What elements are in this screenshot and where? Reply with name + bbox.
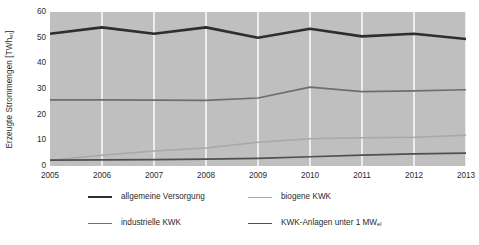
plot-area: [50, 12, 466, 166]
legend-item[interactable]: KWK-Anlagen unter 1 MWel: [248, 216, 381, 230]
legend-color-swatch: [248, 223, 272, 224]
legend-color-swatch: [248, 197, 272, 198]
legend-label-subscript: el: [377, 221, 381, 227]
x-axis-tick-label: 2012: [405, 172, 423, 180]
x-axis-tick-label: 2010: [301, 172, 319, 180]
legend-label: allgemeine Versorgung: [121, 193, 205, 201]
legend-color-swatch: [88, 223, 112, 224]
chart-legend: allgemeine Versorgungbiogene KWKindustri…: [88, 190, 468, 238]
x-axis-tick-label: 2006: [93, 172, 111, 180]
plot-svg: [50, 12, 466, 166]
legend-item[interactable]: industrielle KWK: [88, 216, 181, 230]
x-axis-tick-label: 2008: [197, 172, 215, 180]
legend-item[interactable]: allgemeine Versorgung: [88, 190, 205, 204]
legend-label: KWK-Anlagen unter 1 MWel: [281, 219, 381, 228]
x-axis-tick-label: 2007: [145, 172, 163, 180]
x-axis-tick-label: 2005: [41, 172, 59, 180]
legend-item[interactable]: biogene KWK: [248, 190, 331, 204]
chart-figure: Erzeugte Strommengen [TWhel] 01020304050…: [0, 0, 479, 245]
legend-label: biogene KWK: [281, 193, 331, 201]
x-axis-tick-label: 2013: [457, 172, 475, 180]
x-axis-tick-label: 2009: [249, 172, 267, 180]
legend-label: industrielle KWK: [121, 219, 181, 227]
x-axis-tick-label: 2011: [353, 172, 371, 180]
legend-color-swatch: [88, 196, 112, 198]
